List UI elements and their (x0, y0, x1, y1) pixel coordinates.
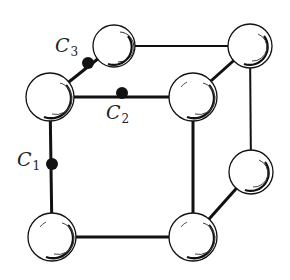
atom-front-bottom-right (169, 213, 217, 261)
crystal-lattice-diagram: C1 C2 C3 (0, 0, 290, 280)
atom-back-top-left (93, 25, 135, 67)
interstitial-c2 (116, 87, 128, 99)
atom-back-bottom-right (229, 150, 273, 194)
interstitial-c3 (82, 57, 94, 69)
label-c1: C1 (17, 150, 40, 172)
atom-front-top-right (169, 73, 217, 121)
interstitial-c1 (46, 158, 58, 170)
lattice-edges (50, 46, 251, 237)
atom-back-top-right (228, 24, 272, 68)
atom-front-bottom-left (28, 213, 76, 261)
label-c2: C2 (106, 103, 129, 125)
atoms (26, 24, 273, 261)
atom-front-top-left (26, 73, 74, 121)
lattice-svg (0, 0, 290, 280)
label-c3: C3 (55, 36, 78, 58)
